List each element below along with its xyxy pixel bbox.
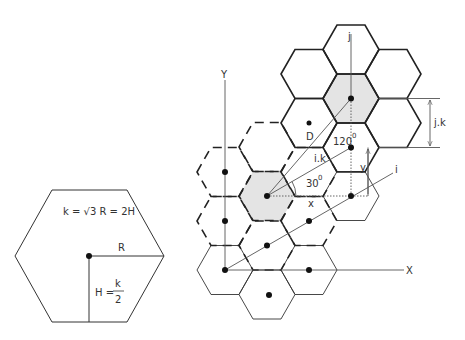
angle-120-label: 120 bbox=[333, 136, 352, 147]
i-axis-label: i bbox=[395, 164, 398, 175]
jk-label: j.k bbox=[433, 117, 446, 128]
x-axis-label: X bbox=[406, 265, 413, 276]
j-axis-label: j bbox=[347, 31, 351, 42]
hexagonal-cell-diagram: k = √3 R = 2H R H = k 2 bbox=[0, 0, 465, 340]
x-component-label: x bbox=[308, 198, 314, 209]
axes bbox=[225, 34, 440, 270]
angle-120-degree: 0 bbox=[352, 132, 356, 140]
reference-hexagon: k = √3 R = 2H R H = k 2 bbox=[15, 190, 164, 322]
angle-30-degree: 0 bbox=[318, 174, 322, 182]
radius-label: R bbox=[118, 242, 125, 253]
y-component-label: y bbox=[360, 162, 366, 173]
center-dot bbox=[86, 253, 92, 259]
height-frac-num: k bbox=[115, 278, 121, 289]
ik-label: i.k bbox=[314, 153, 326, 164]
distance-label: D bbox=[306, 131, 314, 142]
height-label: H = bbox=[95, 287, 114, 298]
angle-30-label: 30 bbox=[306, 178, 319, 189]
y-axis-label: Y bbox=[220, 69, 228, 80]
height-frac-den: 2 bbox=[115, 294, 121, 305]
formula-label: k = √3 R = 2H bbox=[63, 206, 135, 217]
